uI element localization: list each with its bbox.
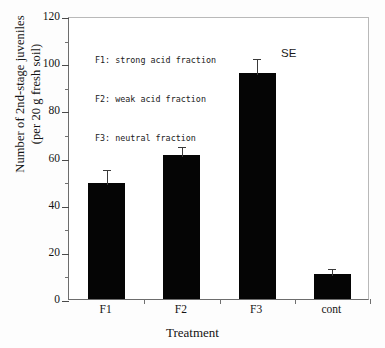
y-tick-label: 40 — [20, 199, 60, 211]
legend-entry-f2: F2: weak acid fraction — [95, 93, 216, 106]
y-tick-minor — [65, 42, 69, 43]
y-tick-minor — [65, 183, 69, 184]
y-tick-major — [62, 18, 69, 19]
y-axis-title-line-1: Number of 2nd-stage juveniles — [13, 15, 29, 172]
legend-entry-f1: F1: strong acid fraction — [95, 54, 216, 67]
y-tick-minor — [65, 277, 69, 278]
se-annotation-label: SE — [281, 47, 296, 59]
error-bar-cap-f3 — [253, 59, 261, 60]
x-tick — [370, 299, 371, 304]
y-tick-major — [62, 160, 69, 161]
legend-entry-f3: F3: neutral fraction — [95, 132, 216, 145]
y-tick-major — [62, 65, 69, 66]
y-tick-minor — [65, 136, 69, 137]
error-bar-stem-f3 — [257, 59, 258, 74]
error-bar-stem-f1 — [107, 170, 108, 185]
bar-f3 — [239, 73, 276, 299]
y-tick-minor — [65, 230, 69, 231]
error-bar-cap-cont — [328, 269, 336, 270]
x-tick-label-f2: F2 — [146, 303, 216, 315]
error-bar-stem-cont — [332, 269, 333, 276]
bar-f2 — [163, 155, 200, 299]
y-tick-major — [62, 254, 69, 255]
legend: F1: strong acid fraction F2: weak acid f… — [95, 28, 216, 171]
y-tick-label: 120 — [20, 10, 60, 22]
x-tick-label-cont: cont — [296, 303, 366, 315]
y-tick-label: 60 — [20, 152, 60, 164]
x-tick-label-f3: F3 — [221, 303, 291, 315]
x-axis-title: Treatment — [0, 325, 385, 341]
y-tick-major — [62, 112, 69, 113]
plot-area: F1: strong acid fraction F2: weak acid f… — [68, 17, 369, 300]
y-tick-label: 100 — [20, 57, 60, 69]
y-tick-major — [62, 207, 69, 208]
y-tick-label: 80 — [20, 104, 60, 116]
x-tick-label-f1: F1 — [71, 303, 141, 315]
y-tick-minor — [65, 89, 69, 90]
chart-figure: Number of 2nd-stage juveniles (per 20 g … — [0, 0, 385, 348]
y-tick-label: 20 — [20, 246, 60, 258]
bar-cont — [314, 274, 351, 299]
bar-f1 — [88, 183, 125, 299]
y-tick-label: 0 — [20, 293, 60, 305]
y-tick-major — [62, 301, 69, 302]
